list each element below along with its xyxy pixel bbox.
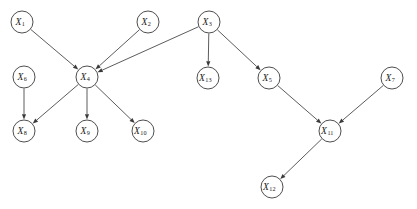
- node-label-subscript: 6: [24, 76, 27, 83]
- graph-node-x1[interactable]: X1: [11, 11, 33, 33]
- graph-node-x7[interactable]: X7: [381, 67, 403, 89]
- edge-x11-to-x12: [280, 139, 321, 179]
- edge-line: [95, 85, 131, 119]
- graph-node-x11[interactable]: X11: [319, 120, 341, 142]
- edge-line: [31, 29, 74, 66]
- graph-node-x4[interactable]: X4: [76, 66, 98, 88]
- edge-x1-to-x4: [31, 29, 78, 69]
- edge-x5-to-x11: [278, 86, 322, 124]
- edge-line: [102, 27, 198, 70]
- node-label-subscript: 5: [269, 77, 272, 84]
- edge-x3-to-x5: [217, 30, 260, 70]
- edge-line: [99, 30, 139, 66]
- node-label-subscript: 12: [269, 186, 275, 193]
- edge-line: [217, 30, 256, 67]
- graph-node-x3[interactable]: X3: [198, 11, 220, 33]
- node-label-subscript: 3: [209, 21, 212, 28]
- diagram-canvas: X1X2X3X6X4X13X5X7X8X9X10X11X12: [0, 0, 417, 209]
- graph-node-x8[interactable]: X8: [13, 120, 35, 142]
- edge-line: [37, 84, 79, 120]
- graph-node-x12[interactable]: X12: [261, 176, 283, 198]
- edge-x6-to-x8: [22, 89, 26, 120]
- node-label-subscript: 4: [87, 76, 90, 83]
- node-label-subscript: 8: [24, 130, 27, 137]
- graph-node-x2[interactable]: X2: [137, 11, 159, 33]
- node-label-subscript: 9: [87, 130, 90, 137]
- graph-node-x13[interactable]: X13: [197, 67, 219, 89]
- node-label-subscript: 7: [392, 77, 395, 84]
- edge-x7-to-x11: [339, 85, 384, 123]
- arrowhead-icon: [206, 61, 210, 66]
- edge-line: [278, 86, 318, 121]
- graph-svg: X1X2X3X6X4X13X5X7X8X9X10X11X12: [0, 0, 417, 209]
- graph-node-x10[interactable]: X10: [132, 120, 154, 142]
- node-label-subscript: 13: [205, 77, 211, 84]
- edge-line: [284, 139, 322, 175]
- edge-x4-to-x8: [33, 84, 79, 123]
- edge-x3-to-x13: [206, 34, 210, 67]
- edge-x4-to-x9: [85, 89, 89, 120]
- graph-node-x5[interactable]: X5: [258, 67, 280, 89]
- graph-node-x6[interactable]: X6: [13, 66, 35, 88]
- node-label-subscript: 10: [140, 130, 146, 137]
- node-label-subscript: 11: [327, 130, 333, 137]
- edge-x4-to-x10: [95, 85, 134, 123]
- edge-x3-to-x4: [97, 27, 198, 73]
- node-label-subscript: 2: [148, 21, 151, 28]
- edges-layer: [22, 27, 383, 179]
- arrowhead-icon: [85, 114, 89, 119]
- arrowhead-icon: [97, 68, 103, 72]
- graph-node-x9[interactable]: X9: [76, 120, 98, 142]
- nodes-layer: X1X2X3X6X4X13X5X7X8X9X10X11X12: [11, 11, 403, 198]
- edge-line: [343, 85, 384, 120]
- arrowhead-icon: [22, 114, 26, 119]
- node-label-subscript: 1: [22, 21, 25, 28]
